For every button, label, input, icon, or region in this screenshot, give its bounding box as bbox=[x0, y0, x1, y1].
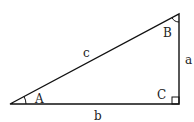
vertex-a-label: A bbox=[34, 92, 44, 106]
angle-b-arc bbox=[172, 18, 179, 22]
side-a-label: a bbox=[185, 53, 192, 67]
side-b-label: b bbox=[94, 109, 102, 122]
triangle-shape bbox=[10, 14, 179, 104]
side-c-label: c bbox=[83, 46, 90, 60]
vertex-b-label: B bbox=[163, 26, 172, 40]
right-angle-marker bbox=[172, 97, 179, 104]
angle-a-arc bbox=[24, 97, 26, 105]
vertex-c-label: C bbox=[157, 88, 166, 102]
right-triangle-diagram: c a b A B C bbox=[0, 0, 194, 122]
